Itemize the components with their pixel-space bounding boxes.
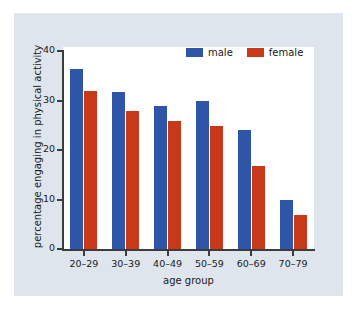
x-axis-line	[62, 249, 315, 251]
legend-entry-female: female	[247, 47, 303, 58]
bar-female-60–69	[252, 166, 265, 249]
bar-male-40–49	[154, 106, 167, 249]
bar-female-20–29	[84, 91, 97, 249]
bar-female-30–39	[126, 111, 139, 249]
bar-male-50–59	[196, 101, 209, 250]
bar-male-70–79	[280, 200, 293, 249]
bar-female-70–79	[294, 215, 307, 249]
x-axis-tick	[208, 251, 210, 256]
legend-swatch-female-icon	[247, 48, 264, 57]
bar-male-20–29	[70, 69, 83, 249]
legend-entry-male: male	[186, 47, 233, 58]
x-axis-tick	[125, 251, 127, 256]
x-axis-tick	[292, 251, 294, 256]
x-axis-tick	[83, 251, 85, 256]
x-axis-tick-label: 70–79	[267, 258, 319, 269]
bar-male-60–69	[238, 130, 251, 249]
chart-legend: malefemale	[186, 47, 303, 58]
chart-figure: 010203040 20–2930–3940–4950–5960–6970–79…	[0, 0, 357, 310]
legend-label: female	[269, 47, 303, 58]
y-axis-title: percentage engaging in physical activity	[32, 42, 43, 252]
x-axis-tick	[250, 251, 252, 256]
bar-series-group	[63, 47, 314, 249]
bar-female-40–49	[168, 121, 181, 249]
bar-female-50–59	[210, 126, 223, 249]
x-axis-title: age group	[63, 275, 314, 286]
legend-swatch-male-icon	[186, 48, 203, 57]
x-axis-tick	[167, 251, 169, 256]
legend-label: male	[208, 47, 233, 58]
bar-male-30–39	[112, 92, 125, 249]
